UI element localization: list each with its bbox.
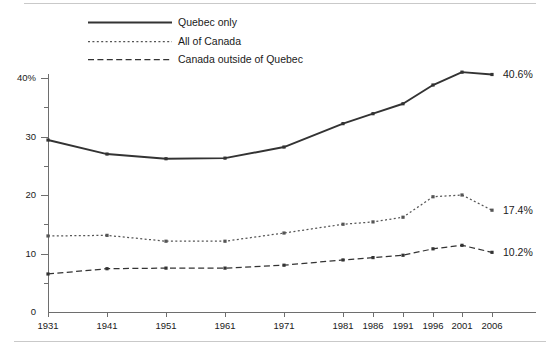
x-axis-tick-label: 1951 bbox=[155, 320, 176, 331]
data-point-marker bbox=[341, 122, 344, 125]
line-chart-figure: Quebec onlyAll of CanadaCanada outside o… bbox=[0, 0, 560, 353]
data-point-marker bbox=[341, 223, 344, 226]
data-point-marker bbox=[223, 157, 226, 160]
data-point-marker bbox=[223, 240, 226, 243]
data-point-marker bbox=[490, 73, 493, 76]
data-point-marker bbox=[401, 216, 404, 219]
series-end-label: 10.2% bbox=[503, 246, 533, 258]
data-point-marker bbox=[401, 254, 404, 257]
legend-item-label: Quebec only bbox=[178, 16, 238, 28]
legend-item-label: Canada outside of Quebec bbox=[178, 53, 303, 65]
data-point-marker bbox=[282, 145, 285, 148]
data-point-marker bbox=[371, 112, 374, 115]
y-axis-tick-label: 10 bbox=[25, 248, 36, 259]
data-point-marker bbox=[341, 258, 344, 261]
data-point-marker bbox=[46, 272, 49, 275]
data-point-marker bbox=[371, 256, 374, 259]
legend-item-label: All of Canada bbox=[178, 35, 241, 47]
x-axis-tick-label: 1931 bbox=[37, 320, 58, 331]
chart-container: Quebec onlyAll of CanadaCanada outside o… bbox=[0, 0, 560, 353]
data-point-marker bbox=[401, 102, 404, 105]
data-point-marker bbox=[371, 220, 374, 223]
data-point-marker bbox=[490, 209, 493, 212]
data-point-marker bbox=[490, 251, 493, 254]
data-point-marker bbox=[105, 152, 108, 155]
x-axis-tick-label: 1971 bbox=[273, 320, 294, 331]
x-axis-tick-label: 1941 bbox=[96, 320, 117, 331]
data-point-marker bbox=[460, 193, 463, 196]
data-point-marker bbox=[105, 234, 108, 237]
data-point-marker bbox=[164, 267, 167, 270]
x-axis-tick-label: 1991 bbox=[392, 320, 413, 331]
data-point-marker bbox=[46, 234, 49, 237]
data-point-marker bbox=[460, 71, 463, 74]
data-point-marker bbox=[431, 83, 434, 86]
x-axis-tick-label: 2006 bbox=[481, 320, 502, 331]
data-point-marker bbox=[46, 138, 49, 141]
x-axis-tick-label: 2001 bbox=[451, 320, 472, 331]
data-point-marker bbox=[164, 157, 167, 160]
series-end-label: 17.4% bbox=[503, 204, 533, 216]
data-point-marker bbox=[164, 240, 167, 243]
x-axis-tick-label: 1986 bbox=[362, 320, 383, 331]
x-axis-tick-label: 1996 bbox=[422, 320, 443, 331]
data-point-marker bbox=[431, 247, 434, 250]
x-axis-tick-label: 1961 bbox=[214, 320, 235, 331]
data-point-marker bbox=[460, 244, 463, 247]
y-axis-tick-label: 20 bbox=[25, 189, 36, 200]
y-axis-tick-label: 40% bbox=[17, 72, 37, 83]
x-axis-tick-label: 1981 bbox=[332, 320, 353, 331]
data-point-marker bbox=[282, 264, 285, 267]
data-point-marker bbox=[282, 231, 285, 234]
data-point-marker bbox=[431, 195, 434, 198]
data-point-marker bbox=[105, 267, 108, 270]
y-axis-tick-label: 30 bbox=[25, 131, 36, 142]
series-end-label: 40.6% bbox=[503, 68, 533, 80]
y-axis-tick-label: 0 bbox=[31, 306, 36, 317]
data-point-marker bbox=[223, 267, 226, 270]
